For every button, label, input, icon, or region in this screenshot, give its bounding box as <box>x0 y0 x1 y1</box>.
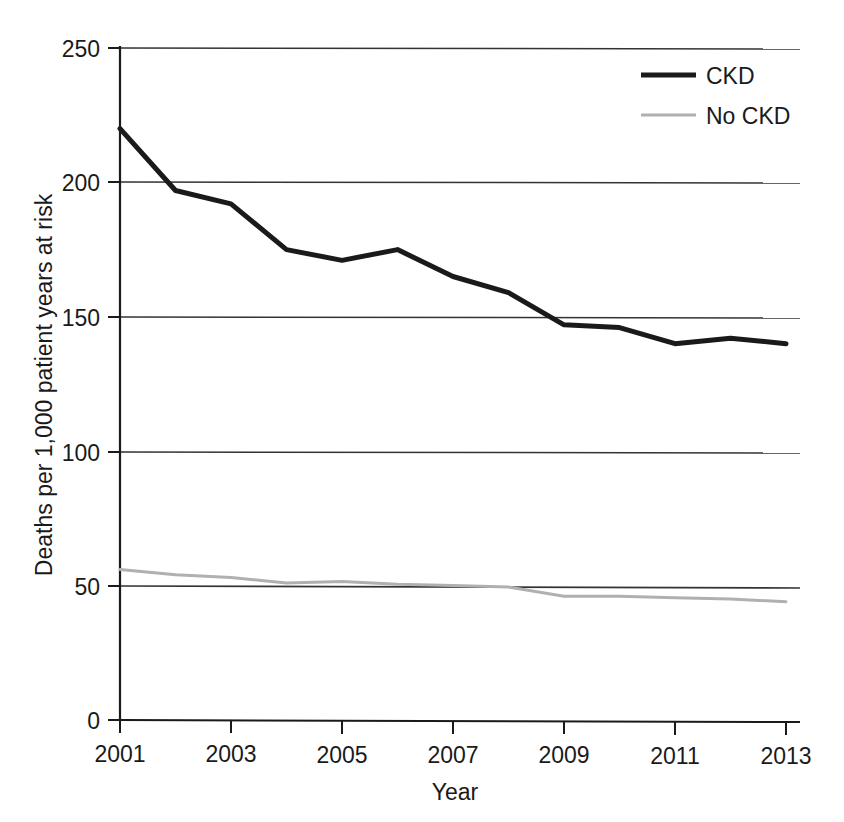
y-tick-label-0: 0 <box>87 708 100 734</box>
y-tick-label-50: 50 <box>74 574 100 600</box>
x-tick-label-2005: 2005 <box>316 742 367 768</box>
gridline-100 <box>120 452 800 453</box>
legend-label-no-ckd: No CKD <box>706 103 790 129</box>
gridline-200 <box>120 182 800 183</box>
y-axis-ticks <box>108 48 120 720</box>
y-axis-tick-labels: 250 200 150 100 50 0 <box>62 36 100 734</box>
x-tick-label-2009: 2009 <box>538 742 589 768</box>
x-axis-tick-labels: 2001 2003 2005 2007 2009 2011 2013 <box>94 741 811 769</box>
x-axis-title: Year <box>432 779 479 805</box>
y-tick-label-150: 150 <box>62 305 100 331</box>
series-line-ckd <box>120 129 786 344</box>
x-tick-label-2003: 2003 <box>205 741 256 767</box>
chart-figure: 250 200 150 100 50 0 2001 2003 2005 2007… <box>0 0 844 822</box>
gridline-250 <box>120 48 800 49</box>
gridline-150 <box>120 317 800 318</box>
legend: CKD No CKD <box>641 63 790 129</box>
y-tick-label-100: 100 <box>62 440 100 466</box>
x-tick-label-2007: 2007 <box>427 742 478 768</box>
legend-label-ckd: CKD <box>706 63 755 89</box>
x-axis-spine <box>120 720 800 722</box>
y-axis-title: Deaths per 1,000 patient years at risk <box>31 193 57 576</box>
x-tick-label-2001: 2001 <box>94 741 145 767</box>
x-tick-label-2011: 2011 <box>650 743 699 769</box>
y-tick-label-250: 250 <box>62 36 100 62</box>
line-chart-canvas: 250 200 150 100 50 0 2001 2003 2005 2007… <box>0 0 844 822</box>
x-tick-label-2013: 2013 <box>760 743 811 769</box>
y-tick-label-200: 200 <box>62 170 100 196</box>
series-group <box>120 129 786 602</box>
gridlines <box>120 48 800 588</box>
